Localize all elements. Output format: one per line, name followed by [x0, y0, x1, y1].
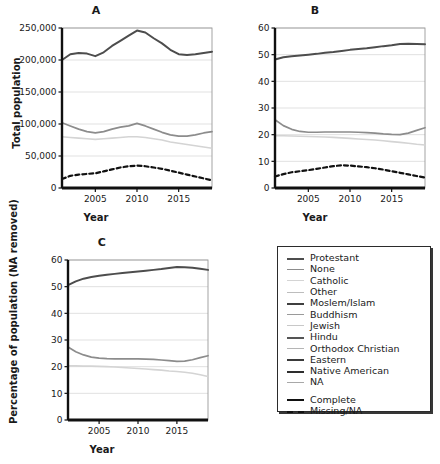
- legend-line-swatch-icon: [286, 405, 305, 416]
- x-tick-label: 2015: [380, 194, 403, 204]
- panel-a: A Total population Year 050,000100,00015…: [0, 0, 220, 232]
- legend-item-orthodox-christian[interactable]: Orthodox Christian: [286, 342, 426, 353]
- y-tick-label: 10: [258, 157, 270, 167]
- y-tick-label: 50,000: [25, 151, 57, 161]
- x-tick-label: 2005: [88, 426, 111, 436]
- legend-item-none[interactable]: None: [286, 263, 426, 274]
- legend-series-list: ProtestantNoneCatholicOtherMoslem/IslamB…: [286, 252, 426, 416]
- x-tick-label: 2015: [165, 426, 188, 436]
- legend-item-label: Complete: [305, 394, 356, 405]
- legend-line-swatch-icon: [286, 376, 305, 387]
- legend-item-moslem-islam[interactable]: Moslem/Islam: [286, 297, 426, 308]
- y-tick-label: 50: [51, 282, 63, 292]
- y-tick-label: 200,000: [19, 55, 56, 65]
- legend-line-swatch-icon: [286, 343, 305, 354]
- legend-line-swatch-icon: [286, 309, 305, 320]
- y-tick-label: 250,000: [19, 23, 56, 33]
- legend-item-label: Orthodox Christian: [305, 343, 400, 354]
- legend-item-label: Eastern: [305, 354, 346, 365]
- legend-item-label: Native American: [305, 365, 389, 376]
- y-tick-label: 50: [258, 50, 270, 60]
- y-tick-label: 40: [51, 309, 63, 319]
- legend-item-jewish[interactable]: Jewish: [286, 320, 426, 331]
- y-tick-label: 20: [258, 130, 270, 140]
- panel-a-xlabel: Year: [16, 212, 176, 223]
- panel-a-plot: 050,000100,000150,000200,000250,00020052…: [0, 0, 220, 232]
- x-tick-label: 2010: [339, 194, 362, 204]
- panel-b: B Percentage of population Year 01020304…: [220, 0, 440, 232]
- y-tick-label: 150,000: [19, 87, 56, 97]
- legend: ProtestantNoneCatholicOtherMoslem/IslamB…: [277, 246, 431, 412]
- legend-item-missing-na[interactable]: Missing/NA: [286, 405, 426, 416]
- legend-item-label: Hindu: [305, 331, 338, 342]
- y-tick-label: 100,000: [19, 119, 56, 129]
- y-tick-label: 30: [51, 335, 63, 345]
- y-tick-label: 0: [264, 183, 270, 193]
- x-tick-label: 2005: [297, 194, 320, 204]
- y-tick-label: 60: [51, 255, 63, 265]
- legend-line-swatch-icon: [286, 394, 305, 405]
- y-tick-label: 60: [258, 23, 270, 33]
- legend-item-label: Jewish: [305, 320, 340, 331]
- legend-item-other[interactable]: Other: [286, 286, 426, 297]
- panel-c-title: C: [22, 236, 182, 249]
- panel-c-ylabel: Percentage of population (NA removed): [8, 246, 19, 424]
- panel-a-title: A: [16, 4, 176, 17]
- legend-line-swatch-icon: [286, 365, 305, 376]
- legend-item-label: NA: [305, 376, 324, 387]
- legend-item-label: Moslem/Islam: [305, 297, 375, 308]
- x-tick-label: 2010: [127, 426, 150, 436]
- legend-line-swatch-icon: [286, 297, 305, 308]
- legend-item-eastern[interactable]: Eastern: [286, 354, 426, 365]
- legend-item-label: Protestant: [305, 252, 359, 263]
- y-tick-label: 20: [51, 362, 63, 372]
- legend-line-swatch-icon: [286, 331, 305, 342]
- legend-line-swatch-icon: [286, 354, 305, 365]
- legend-item-label: Catholic: [305, 275, 349, 286]
- legend-item-na[interactable]: NA: [286, 376, 426, 387]
- legend-line-swatch-icon: [286, 286, 305, 297]
- panel-c-xlabel: Year: [22, 444, 182, 455]
- legend-line-swatch-icon: [286, 263, 305, 274]
- legend-item-buddhism[interactable]: Buddhism: [286, 308, 426, 319]
- y-tick-label: 40: [258, 77, 270, 87]
- y-tick-label: 10: [51, 389, 63, 399]
- panel-b-title: B: [230, 4, 400, 17]
- panel-b-xlabel: Year: [230, 212, 400, 223]
- panel-a-ylabel: Total population: [11, 18, 22, 188]
- legend-line-swatch-icon: [286, 275, 305, 286]
- legend-item-label: None: [305, 263, 335, 274]
- panel-b-plot: 0102030405060200520102015: [220, 0, 440, 232]
- legend-item-label: Other: [305, 286, 337, 297]
- panel-c: C Percentage of population (NA removed) …: [0, 232, 220, 464]
- y-tick-label: 0: [57, 415, 63, 425]
- x-tick-label: 2015: [167, 194, 190, 204]
- legend-item-complete[interactable]: Complete: [286, 394, 426, 405]
- legend-item-protestant[interactable]: Protestant: [286, 252, 426, 263]
- legend-item-catholic[interactable]: Catholic: [286, 275, 426, 286]
- figure-panel-grid: A Total population Year 050,000100,00015…: [0, 0, 440, 464]
- legend-item-label: Buddhism: [305, 309, 357, 320]
- panel-c-plot: 0102030405060200520102015: [0, 232, 220, 464]
- legend-line-swatch-icon: [286, 320, 305, 331]
- y-tick-label: 0: [51, 183, 57, 193]
- legend-line-swatch-icon: [286, 252, 305, 263]
- y-tick-label: 30: [258, 103, 270, 113]
- x-tick-label: 2005: [84, 194, 107, 204]
- legend-item-label: Missing/NA: [305, 405, 362, 416]
- legend-item-native-american[interactable]: Native American: [286, 365, 426, 376]
- legend-item-hindu[interactable]: Hindu: [286, 331, 426, 342]
- x-tick-label: 2010: [126, 194, 149, 204]
